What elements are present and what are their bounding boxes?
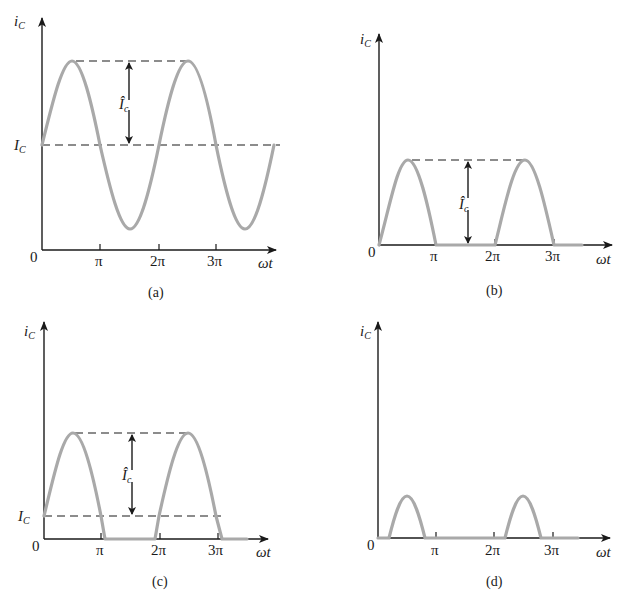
amplitude-label: Îc <box>121 467 132 485</box>
amplitude-label: Îc <box>458 196 469 214</box>
waveform-curve <box>378 496 578 538</box>
x-axis-label: ωt <box>596 544 612 560</box>
panel-b: iC Îc 0 π 2π 3π ωt (b) <box>360 31 612 299</box>
panel-d: iC 0 π 2π 3π ωt (d) <box>360 322 612 590</box>
origin-label: 0 <box>367 537 375 553</box>
tick-label-2pi: 2π <box>151 542 167 558</box>
panel-a: iC IC Îc 0 π 2π 3π ωt (a) <box>13 13 280 301</box>
tick-label-2pi: 2π <box>150 253 166 269</box>
dc-label: IC <box>13 137 26 155</box>
tick-label-3pi: 3π <box>544 542 560 558</box>
y-axis-label: iC <box>14 13 25 31</box>
tick-label-2pi: 2π <box>485 248 501 264</box>
panel-caption: (c) <box>152 574 168 590</box>
y-axis-label: iC <box>360 31 371 49</box>
origin-label: 0 <box>30 249 38 265</box>
panel-c: iC IC Îc 0 π 2π 3π ωt (c) <box>17 322 272 590</box>
y-axis-label: iC <box>360 323 371 341</box>
panel-caption: (a) <box>148 285 164 301</box>
tick-label-pi: π <box>95 253 103 269</box>
tick-label-pi: π <box>96 542 104 558</box>
amplitude-label: Îc <box>118 96 129 114</box>
class-waveform-figure: iC IC Îc 0 π 2π 3π ωt (a) iC Îc 0 π 2π 3… <box>0 0 633 609</box>
waveform-curve <box>44 433 247 539</box>
tick-label-3pi: 3π <box>545 248 561 264</box>
y-axis-label: iC <box>24 323 35 341</box>
tick-label-pi: π <box>430 248 438 264</box>
x-axis-label: ωt <box>258 255 274 271</box>
x-axis-label: ωt <box>596 251 612 267</box>
panel-caption: (d) <box>486 574 503 590</box>
origin-label: 0 <box>32 538 40 554</box>
x-axis-label: ωt <box>256 544 272 560</box>
dc-label: IC <box>17 508 30 526</box>
tick-label-3pi: 3π <box>207 253 223 269</box>
panel-caption: (b) <box>486 283 503 299</box>
waveform-curve <box>379 160 582 245</box>
origin-label: 0 <box>368 244 376 260</box>
tick-label-2pi: 2π <box>485 542 501 558</box>
tick-label-pi: π <box>431 542 439 558</box>
tick-label-3pi: 3π <box>208 542 224 558</box>
